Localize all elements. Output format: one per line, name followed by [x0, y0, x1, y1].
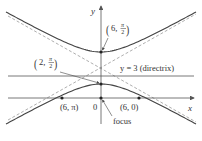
lower-vertex-label: ( 2, π 2 ) — [34, 56, 57, 72]
svg-text:(: ( — [34, 57, 37, 72]
focus-pointer — [103, 100, 113, 116]
directrix-label: y = 3 (directrix) — [120, 63, 174, 73]
lower-vertex-point — [99, 82, 102, 85]
origin-label: 0 — [93, 102, 97, 112]
x-axis-label: x — [187, 103, 192, 113]
svg-text:π: π — [49, 56, 53, 62]
focus-point — [99, 96, 102, 99]
svg-text:6,: 6, — [111, 23, 117, 33]
right-intercept-point — [137, 96, 140, 99]
lower-vertex-pointer — [60, 72, 99, 83]
svg-text:): ) — [54, 57, 57, 72]
hyperbola-diagram: y x 0 ( 6, π 2 ) ( 2, π 2 ) y = 3 (direc… — [0, 0, 202, 141]
svg-text:2: 2 — [121, 29, 124, 35]
svg-text:2,: 2, — [39, 57, 45, 67]
upper-vertex-point — [99, 50, 102, 53]
svg-text:2: 2 — [49, 63, 52, 69]
left-intercept-label: (6, π) — [60, 102, 79, 112]
right-intercept-label: (6, 0) — [120, 102, 139, 112]
svg-text:π: π — [121, 22, 125, 28]
y-axis-label: y — [90, 6, 95, 16]
upper-vertex-label: ( 6, π 2 ) — [106, 22, 129, 38]
svg-text:(: ( — [106, 23, 109, 38]
svg-text:): ) — [126, 23, 129, 38]
focus-label: focus — [113, 116, 131, 126]
upper-vertex-pointer — [103, 38, 109, 50]
left-intercept-point — [60, 96, 63, 99]
